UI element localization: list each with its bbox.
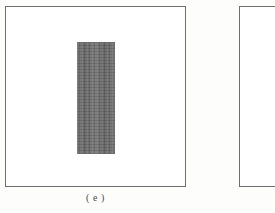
figure-caption-e: ( e ) [5, 192, 186, 203]
figure-sheet: ( e ) [0, 0, 275, 213]
figure-panel-next [239, 6, 275, 187]
specimen-block [77, 42, 115, 154]
figure-panel-e [5, 6, 186, 187]
